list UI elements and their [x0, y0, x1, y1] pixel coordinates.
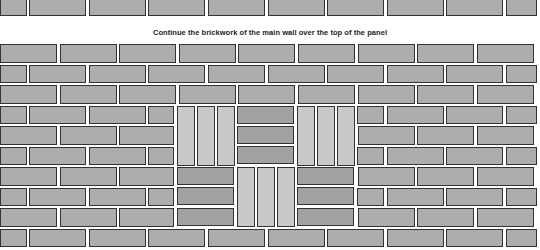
panel-vertical-brick — [237, 167, 255, 227]
wall-brick — [387, 229, 444, 248]
wall-brick — [208, 229, 265, 248]
wall-brick — [89, 229, 146, 248]
wall-brick — [119, 167, 174, 186]
wall-brick — [327, 0, 384, 16]
wall-brick — [358, 44, 415, 63]
wall-brick — [29, 188, 86, 207]
wall-brick — [506, 106, 537, 125]
wall-brick — [60, 126, 117, 145]
wall-brick — [298, 44, 355, 63]
wall-brick — [148, 188, 174, 207]
wall-brick — [119, 44, 176, 63]
wall-brick — [29, 0, 86, 16]
wall-brick — [0, 106, 27, 125]
wall-brick — [387, 147, 444, 166]
wall-brick — [179, 85, 236, 104]
wall-brick — [506, 188, 537, 207]
wall-brick — [119, 85, 176, 104]
panel-horizontal-brick — [237, 106, 294, 124]
wall-brick — [417, 167, 474, 186]
wall-brick — [0, 147, 27, 166]
wall-brick — [268, 0, 325, 16]
wall-brick — [268, 229, 325, 248]
panel-vertical-brick — [177, 106, 195, 166]
wall-brick — [327, 65, 384, 84]
wall-brick — [477, 85, 534, 104]
wall-brick — [60, 44, 117, 63]
wall-brick — [148, 65, 205, 84]
wall-brick — [446, 0, 503, 16]
wall-brick — [179, 44, 236, 63]
panel-horizontal-brick — [297, 208, 354, 226]
wall-brick — [0, 44, 57, 63]
panel-vertical-brick — [297, 106, 315, 166]
wall-brick — [446, 65, 503, 84]
wall-brick — [0, 188, 27, 207]
panel-horizontal-brick — [177, 167, 234, 185]
wall-brick — [60, 167, 117, 186]
wall-brick — [238, 44, 295, 63]
wall-brick — [0, 208, 57, 227]
wall-brick — [0, 167, 57, 186]
wall-brick — [387, 106, 444, 125]
wall-brick — [148, 0, 205, 16]
wall-brick — [358, 85, 415, 104]
panel-horizontal-brick — [177, 187, 234, 205]
wall-brick — [60, 85, 117, 104]
wall-brick — [327, 229, 384, 248]
wall-brick — [446, 188, 503, 207]
wall-brick — [358, 167, 415, 186]
panel-horizontal-brick — [237, 126, 294, 144]
wall-brick — [506, 147, 537, 166]
wall-brick — [29, 65, 86, 84]
wall-brick — [446, 106, 503, 125]
panel-vertical-brick — [217, 106, 235, 166]
panel-vertical-brick — [317, 106, 335, 166]
panel-horizontal-brick — [297, 167, 354, 185]
wall-brick — [0, 0, 27, 16]
wall-brick — [0, 65, 27, 84]
wall-brick — [446, 229, 503, 248]
panel-vertical-brick — [257, 167, 275, 227]
wall-brick — [89, 106, 146, 125]
wall-brick — [0, 126, 57, 145]
wall-brick — [387, 188, 444, 207]
wall-brick — [148, 147, 174, 166]
wall-brick — [506, 0, 537, 16]
wall-brick — [0, 85, 57, 104]
wall-brick — [268, 65, 325, 84]
wall-brick — [446, 147, 503, 166]
wall-brick — [0, 229, 27, 248]
wall-brick — [417, 85, 474, 104]
wall-brick — [119, 208, 174, 227]
wall-brick — [506, 229, 537, 248]
panel-horizontal-brick — [297, 187, 354, 205]
wall-brick — [148, 229, 205, 248]
wall-brick — [477, 126, 534, 145]
wall-brick — [417, 208, 474, 227]
instruction-caption: Continue the brickwork of the main wall … — [0, 28, 540, 37]
panel-horizontal-brick — [237, 146, 294, 164]
brick-wall-diagram — [0, 0, 540, 250]
wall-brick — [89, 65, 146, 84]
wall-brick — [477, 44, 534, 63]
wall-brick — [89, 0, 146, 16]
wall-brick — [89, 188, 146, 207]
wall-brick — [119, 126, 174, 145]
panel-horizontal-brick — [177, 208, 234, 226]
wall-brick — [387, 0, 444, 16]
wall-brick — [387, 65, 444, 84]
wall-brick — [357, 188, 384, 207]
wall-brick — [298, 85, 355, 104]
wall-brick — [477, 167, 534, 186]
wall-brick — [29, 147, 86, 166]
wall-brick — [208, 65, 265, 84]
wall-brick — [29, 229, 86, 248]
wall-brick — [238, 85, 295, 104]
panel-vertical-brick — [197, 106, 215, 166]
panel-vertical-brick — [337, 106, 355, 166]
wall-brick — [89, 147, 146, 166]
wall-brick — [60, 208, 117, 227]
wall-brick — [208, 0, 265, 16]
wall-brick — [417, 126, 474, 145]
